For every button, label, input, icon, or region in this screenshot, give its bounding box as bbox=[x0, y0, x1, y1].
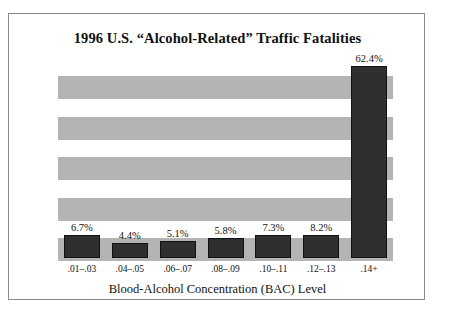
bar bbox=[112, 243, 148, 258]
bar bbox=[64, 235, 100, 258]
bar bbox=[160, 241, 196, 259]
chart-frame: 1996 U.S. “Alcohol-Related” Traffic Fata… bbox=[8, 13, 425, 300]
bar bbox=[351, 66, 387, 258]
x-tick-label: .01–.03 bbox=[58, 264, 106, 274]
bar-value-label: 4.4% bbox=[119, 230, 141, 241]
bar bbox=[303, 235, 339, 258]
bar-column: 5.8% bbox=[208, 63, 244, 258]
chart-title: 1996 U.S. “Alcohol-Related” Traffic Fata… bbox=[9, 30, 426, 47]
x-tick-label: .08–.09 bbox=[202, 264, 250, 274]
bar-column: 6.7% bbox=[64, 63, 100, 258]
bar-value-label: 5.8% bbox=[215, 225, 237, 236]
bar-value-label: 8.2% bbox=[310, 222, 332, 233]
bar-column: 8.2% bbox=[303, 63, 339, 258]
x-axis-title: Blood-Alcohol Concentration (BAC) Level bbox=[9, 282, 426, 297]
bar-value-label: 6.7% bbox=[71, 222, 93, 233]
chart-screenshot: 1996 U.S. “Alcohol-Related” Traffic Fata… bbox=[0, 0, 450, 319]
bar-value-label: 5.1% bbox=[167, 228, 189, 239]
bar-value-label: 7.3% bbox=[262, 222, 284, 233]
bar-column: 5.1% bbox=[160, 63, 196, 258]
x-tick-label: .14+ bbox=[345, 264, 393, 274]
x-tick-label: .10–.11 bbox=[249, 264, 297, 274]
bar-series: 6.7%4.4%5.1%5.8%7.3%8.2%62.4% bbox=[58, 63, 393, 258]
bar bbox=[255, 235, 291, 258]
bar-column: 4.4% bbox=[112, 63, 148, 258]
bar-value-label: 62.4% bbox=[356, 53, 383, 64]
bar-column: 62.4% bbox=[351, 63, 387, 258]
bar bbox=[208, 238, 244, 258]
x-tick-label: .04–.05 bbox=[106, 264, 154, 274]
plot-area: 6.7%4.4%5.1%5.8%7.3%8.2%62.4% bbox=[58, 63, 393, 258]
x-tick-label: .12–.13 bbox=[297, 264, 345, 274]
x-axis-tick-labels: .01–.03.04–.05.06–.07.08–.09.10–.11.12–.… bbox=[58, 264, 393, 278]
x-tick-label: .06–.07 bbox=[154, 264, 202, 274]
bar-column: 7.3% bbox=[255, 63, 291, 258]
